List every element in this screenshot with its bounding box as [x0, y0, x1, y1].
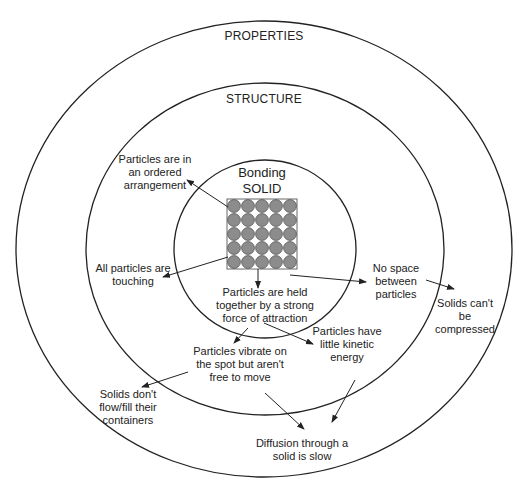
arrow-diffusion-from-vibrate [265, 393, 304, 429]
label-kinetic-energy: Particles have little kinetic energy [312, 325, 381, 364]
particle [228, 242, 241, 255]
label-dont-flow: Solids don't flow/fill their containers [99, 388, 156, 427]
particle [242, 214, 255, 227]
particle [228, 214, 241, 227]
particle [242, 242, 255, 255]
particle [284, 256, 297, 269]
particle [228, 256, 241, 269]
label-all-touching: All particles are touching [95, 262, 170, 288]
label-cant-compress: Solids can't be compressed [435, 297, 495, 336]
particle [256, 214, 269, 227]
particle [242, 200, 255, 213]
concentric-diagram [0, 0, 521, 490]
properties-title: PROPERTIES [224, 29, 303, 43]
bonding-solid-title: Bonding SOLID [238, 165, 286, 197]
label-diffusion-slow: Diffusion through a solid is slow [256, 437, 348, 463]
particle [228, 228, 241, 241]
particle [256, 200, 269, 213]
particle-grid-icon [227, 199, 297, 269]
label-held-together: Particles are held together by a strong … [216, 286, 314, 325]
arrow-flow [142, 372, 188, 387]
particle [242, 256, 255, 269]
particle [270, 214, 283, 227]
particle [270, 200, 283, 213]
particle [284, 200, 297, 213]
particle [242, 228, 255, 241]
label-ordered-arrangement: Particles are in an ordered arrangement [119, 153, 192, 192]
particle [256, 256, 269, 269]
particle [256, 228, 269, 241]
particle [284, 228, 297, 241]
arrow-no-space [290, 275, 366, 282]
label-no-space: No space between particles [373, 262, 419, 301]
arrow-kinetic [264, 323, 313, 344]
particle [284, 242, 297, 255]
particle [270, 242, 283, 255]
structure-title: STRUCTURE [226, 92, 302, 106]
label-vibrate: Particles vibrate on the spot but aren't… [193, 345, 287, 384]
arrow-touching [163, 257, 228, 277]
particle [270, 256, 283, 269]
particle [228, 200, 241, 213]
particle [256, 242, 269, 255]
particle [270, 228, 283, 241]
particle [284, 214, 297, 227]
